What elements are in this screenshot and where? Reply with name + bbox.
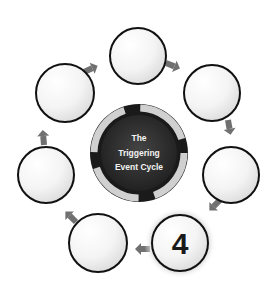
center-title-line-1: The [131,133,146,143]
step-number: 4 [172,227,189,260]
node-left [18,147,74,203]
node-upper-right [184,65,240,121]
node-bottom-left [69,214,127,272]
center-title-line-2: Triggering [118,148,160,158]
center-title-line-3: Event Cycle [115,162,163,172]
cycle-diagram: 4 The Triggering Event Cycle [0,0,273,290]
node-right [203,147,259,203]
node-upper-left [36,64,94,122]
arrow-icon [222,119,236,136]
arrow-icon [37,130,50,146]
center-hub: The Triggering Event Cycle [90,104,188,202]
node-top [110,28,166,84]
